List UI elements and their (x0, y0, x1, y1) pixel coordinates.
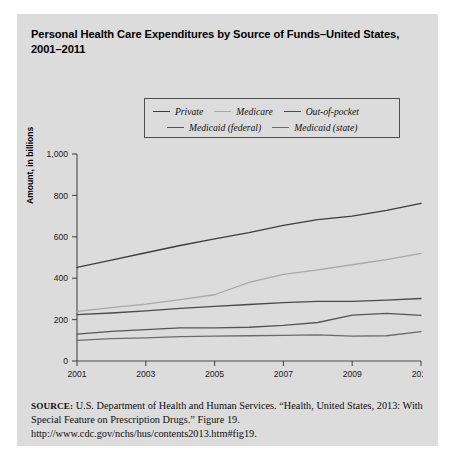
figure-source-note: SOURCE: U.S. Department of Health and Hu… (31, 399, 425, 440)
source-prefix: SOURCE: (31, 401, 73, 411)
x-tick-label: 2001 (67, 369, 86, 379)
x-tick-label: 2009 (343, 369, 362, 379)
series-line-medicare (77, 253, 421, 311)
x-axis-ticks: 200120032005200720092011 (67, 361, 423, 379)
x-tick-label: 2005 (205, 369, 224, 379)
series-line-out-of-pocket (77, 298, 421, 314)
x-tick-label: 2003 (136, 369, 155, 379)
figure-title: Personal Health Care Expenditures by Sou… (31, 27, 423, 57)
x-tick-label: 2011 (412, 369, 423, 379)
y-axis-ticks: 02004006008001,000 (46, 149, 77, 366)
y-tick-label: 600 (54, 232, 69, 242)
chart-series-group (77, 203, 421, 340)
x-tick-label: 2007 (274, 369, 293, 379)
series-line-private (77, 203, 421, 267)
y-tick-label: 0 (63, 356, 68, 366)
y-tick-label: 200 (54, 315, 69, 325)
y-tick-label: 1,000 (46, 149, 68, 159)
series-line-medicaid-state (77, 332, 421, 341)
figure-panel: Personal Health Care Expenditures by Sou… (17, 14, 438, 446)
y-tick-label: 400 (54, 273, 69, 283)
plot-area: Private Medicare Out-of-pocket Medicaid … (31, 76, 423, 386)
source-body: U.S. Department of Health and Human Serv… (31, 400, 423, 439)
y-tick-label: 800 (54, 191, 69, 201)
line-chart-svg: 02004006008001,000 200120032005200720092… (31, 76, 423, 386)
series-line-medicaid-federal (77, 313, 421, 334)
